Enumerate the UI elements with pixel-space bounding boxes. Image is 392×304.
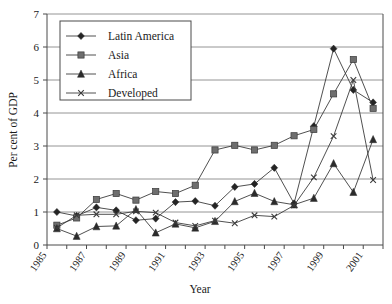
diamond-marker bbox=[192, 198, 199, 205]
diamond-marker bbox=[330, 45, 337, 52]
square-marker bbox=[251, 147, 257, 153]
square-marker bbox=[212, 147, 218, 153]
x-axis-title: Year bbox=[189, 283, 210, 295]
diamond-marker bbox=[113, 207, 120, 214]
x-tick-label: 1991 bbox=[146, 250, 167, 274]
square-marker bbox=[192, 182, 198, 188]
square-marker bbox=[113, 190, 119, 196]
y-tick-label: 6 bbox=[34, 41, 40, 53]
triangle-marker bbox=[251, 189, 258, 196]
legend-item-label: Asia bbox=[108, 49, 129, 61]
triangle-marker bbox=[370, 136, 377, 143]
gdp-line-chart: 01234567 1985198719891991199319951997199… bbox=[0, 0, 392, 304]
chart-legend: Latin AmericaAsiaAfricaDeveloped bbox=[60, 21, 191, 100]
triangle-marker bbox=[271, 198, 278, 205]
square-marker bbox=[370, 105, 376, 111]
y-axis-ticks: 01234567 bbox=[34, 8, 48, 251]
diamond-marker bbox=[133, 217, 140, 224]
x-tick-label: 1997 bbox=[265, 250, 286, 274]
triangle-marker bbox=[330, 160, 337, 167]
x-tick-label: 1999 bbox=[304, 250, 325, 274]
square-marker bbox=[330, 91, 336, 97]
square-marker bbox=[153, 188, 159, 194]
triangle-marker bbox=[310, 194, 317, 201]
x-tick-label: 2001 bbox=[344, 250, 365, 274]
square-marker bbox=[93, 196, 99, 202]
y-tick-label: 0 bbox=[34, 239, 40, 251]
x-tick-label: 1993 bbox=[186, 250, 207, 274]
legend-item-label: Africa bbox=[108, 68, 137, 80]
square-marker bbox=[78, 52, 84, 58]
square-marker bbox=[133, 197, 139, 203]
y-tick-label: 5 bbox=[34, 74, 40, 86]
x-tick-label: 1995 bbox=[225, 250, 246, 274]
y-tick-label: 4 bbox=[34, 107, 40, 119]
y-tick-label: 2 bbox=[34, 173, 40, 185]
triangle-marker bbox=[231, 198, 238, 205]
x-tick-label: 1985 bbox=[28, 250, 49, 274]
diamond-marker bbox=[93, 204, 100, 211]
triangle-marker bbox=[73, 232, 80, 239]
square-marker bbox=[291, 133, 297, 139]
diamond-marker bbox=[53, 208, 60, 215]
legend-item-label: Developed bbox=[108, 87, 158, 100]
square-marker bbox=[311, 126, 317, 132]
x-tick-label: 1987 bbox=[67, 250, 88, 274]
y-tick-label: 3 bbox=[34, 140, 40, 152]
x-tick-label: 1989 bbox=[107, 250, 128, 274]
square-marker bbox=[350, 56, 356, 62]
square-marker bbox=[172, 190, 178, 196]
x-axis-ticks: 198519871989199119931995199719992001 bbox=[28, 245, 383, 273]
square-marker bbox=[271, 142, 277, 148]
chart-container: 01234567 1985198719891991199319951997199… bbox=[0, 0, 392, 304]
y-tick-label: 7 bbox=[34, 8, 40, 20]
y-tick-label: 1 bbox=[34, 206, 40, 218]
legend-item-label: Latin America bbox=[108, 30, 174, 42]
square-marker bbox=[232, 142, 238, 148]
x-marker bbox=[331, 133, 337, 139]
y-axis-title: Per cent of GDP bbox=[7, 92, 19, 168]
